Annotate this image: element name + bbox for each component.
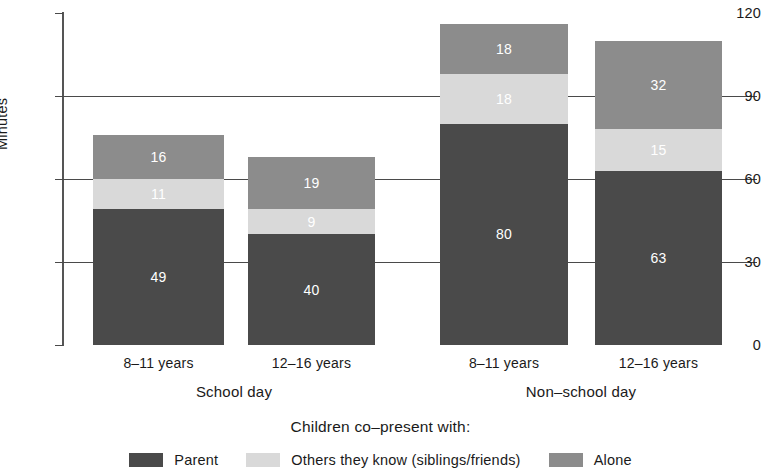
bar-segment-others: 9 <box>248 209 375 234</box>
bar-school-day-12-16: 19 9 40 <box>248 157 375 345</box>
legend-label-alone: Alone <box>594 452 632 468</box>
y-tick-mark-0 <box>55 345 63 346</box>
y-tick-mark-120 <box>55 13 63 14</box>
bar-segment-parent: 49 <box>93 209 224 345</box>
category-label-school-day-12-16: 12–16 years <box>248 355 375 371</box>
bar-segment-parent: 63 <box>595 171 722 345</box>
y-tick-mark-90 <box>55 96 63 97</box>
bar-segment-value: 19 <box>303 176 319 190</box>
bar-segment-value: 9 <box>307 215 315 229</box>
group-label-school-day: School day <box>93 383 375 400</box>
bar-segment-others: 18 <box>440 74 568 124</box>
y-tick-label-60: 60 <box>715 172 761 187</box>
bar-segment-value: 63 <box>650 251 666 265</box>
bar-segment-value: 40 <box>303 283 319 297</box>
legend-label-parent: Parent <box>174 452 218 468</box>
y-tick-mark-30 <box>55 262 63 263</box>
group-label-non-school-day: Non–school day <box>440 383 722 400</box>
y-tick-label-90: 90 <box>715 89 761 104</box>
stacked-bar-chart: Minutes 16 11 49 19 <box>0 0 761 476</box>
bar-segment-value: 49 <box>150 270 166 284</box>
legend-swatch-alone-icon <box>549 453 583 467</box>
legend-swatch-others-icon <box>246 453 280 467</box>
bar-segment-others: 15 <box>595 129 722 171</box>
category-label-non-school-day-12-16: 12–16 years <box>595 355 722 371</box>
legend-label-others: Others they know (siblings/friends) <box>291 452 520 468</box>
bar-segment-alone: 32 <box>595 41 722 130</box>
legend: Parent Others they know (siblings/friend… <box>0 452 761 468</box>
y-tick-label-30: 30 <box>715 255 761 270</box>
bar-segment-parent: 80 <box>440 124 568 345</box>
bar-segment-alone: 18 <box>440 24 568 74</box>
bar-non-school-day-12-16: 32 15 63 <box>595 41 722 345</box>
bar-segment-value: 80 <box>496 227 512 241</box>
y-tick-mark-60 <box>55 179 63 180</box>
bar-segment-alone: 16 <box>93 135 224 179</box>
legend-title: Children co–present with: <box>0 418 761 436</box>
category-label-non-school-day-8-11: 8–11 years <box>440 355 568 371</box>
legend-item-others: Others they know (siblings/friends) <box>246 452 520 468</box>
y-tick-label-0: 0 <box>715 338 761 353</box>
bar-segment-value: 16 <box>150 150 166 164</box>
bar-segment-value: 32 <box>650 78 666 92</box>
bar-segment-others: 11 <box>93 179 224 209</box>
bar-segment-value: 11 <box>151 187 166 201</box>
plot-area: 16 11 49 19 9 40 18 <box>63 13 757 345</box>
category-label-school-day-8-11: 8–11 years <box>93 355 224 371</box>
bar-segment-parent: 40 <box>248 234 375 345</box>
bar-school-day-8-11: 16 11 49 <box>93 135 224 345</box>
bar-segment-value: 18 <box>496 42 512 56</box>
y-tick-label-120: 120 <box>715 6 761 21</box>
legend-item-parent: Parent <box>129 452 218 468</box>
bar-non-school-day-8-11: 18 18 80 <box>440 24 568 345</box>
bar-segment-alone: 19 <box>248 157 375 210</box>
legend-item-alone: Alone <box>549 452 632 468</box>
bar-segment-value: 15 <box>650 143 666 157</box>
y-axis-title: Minutes <box>0 98 10 150</box>
bar-segment-value: 18 <box>496 92 512 106</box>
legend-swatch-parent-icon <box>129 453 163 467</box>
